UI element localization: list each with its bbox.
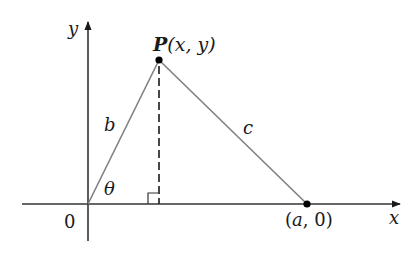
point-a-rest: , 0) [303, 209, 333, 230]
side-b-label: b [104, 114, 116, 135]
point-p-name: P [152, 33, 168, 55]
point-a-dot [303, 200, 310, 207]
point-a-var: a [292, 209, 303, 230]
point-p-label: P(x, y) [152, 33, 216, 55]
side-c [159, 60, 307, 204]
y-axis-label: y [67, 18, 79, 39]
right-angle-marker [148, 193, 159, 204]
point-p-coords: (x, y) [167, 33, 215, 55]
point-a-open-paren: ( [285, 209, 292, 230]
side-c-label: c [243, 117, 253, 138]
origin-label: 0 [64, 211, 75, 232]
triangle-diagram: y x 0 P(x, y) (a, 0) b c θ [0, 0, 418, 258]
side-b [88, 60, 159, 204]
point-a-label: (a, 0) [285, 209, 333, 230]
x-axis-label: x [389, 207, 399, 228]
angle-theta-label: θ [104, 178, 115, 199]
point-p-dot [155, 56, 162, 63]
